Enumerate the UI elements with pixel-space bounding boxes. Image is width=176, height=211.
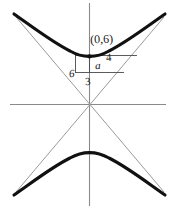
semi-transverse-axis-label: a xyxy=(95,60,101,71)
semi-conjugate-axis-label: 6 xyxy=(69,68,75,79)
hyperbola-svg xyxy=(0,0,176,211)
a-value-label: 4 xyxy=(106,52,112,63)
vertex-coordinate-label: (0,6) xyxy=(90,33,113,46)
hyperbola-figure: (0,6) 6 a 4 3 xyxy=(0,0,176,211)
b-value-label: 3 xyxy=(85,76,91,87)
vertex-point-marker xyxy=(87,54,91,58)
